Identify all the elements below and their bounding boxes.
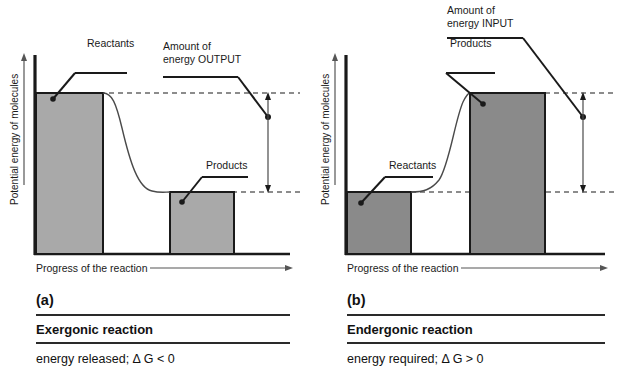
x-axis-direction-arrow-icon [461, 265, 608, 271]
reactants-bar [347, 192, 411, 254]
figure-root: Reactants Products Amount of energy OUTP… [0, 0, 627, 376]
reactants-bar [36, 93, 103, 254]
panel-subtitle-a: energy released; Δ G < 0 [0, 344, 313, 366]
energy-input-measure-arrow [580, 92, 586, 193]
products-bar [470, 93, 545, 254]
panel-title-b: Endergonic reaction [313, 316, 627, 342]
energy-input-label-line2: energy INPUT [447, 17, 514, 29]
x-axis-label: Progress of the reaction [36, 262, 148, 274]
endergonic-diagram: Reactants Products Amount of energy INPU… [313, 0, 627, 290]
reactants-label: Reactants [87, 37, 134, 49]
energy-output-callout [163, 77, 271, 120]
y-axis-label: Potential energy of molecules [320, 74, 331, 205]
reactants-label: Reactants [389, 159, 436, 171]
panel-title-a: Exergonic reaction [0, 316, 313, 342]
y-axis-arrow-icon [332, 53, 338, 185]
energy-output-label-line1: Amount of [163, 40, 211, 52]
y-axis-arrow-icon [21, 53, 27, 185]
panel-endergonic: Reactants Products Amount of energy INPU… [313, 0, 627, 376]
reaction-progress-curve [103, 93, 170, 192]
energy-output-measure-arrow [265, 92, 271, 193]
energy-output-label-line2: energy OUTPUT [163, 53, 242, 65]
products-label: Products [450, 37, 491, 49]
energy-input-label-line1: Amount of [447, 4, 495, 16]
y-axis-label: Potential energy of molecules [9, 74, 20, 205]
panel-letter-a: (a) [0, 292, 313, 314]
panel-letter-b: (b) [313, 292, 627, 314]
panel-exergonic: Reactants Products Amount of energy OUTP… [0, 0, 313, 376]
panel-subtitle-b: energy required; Δ G > 0 [313, 344, 627, 366]
exergonic-diagram: Reactants Products Amount of energy OUTP… [0, 0, 313, 290]
products-label: Products [206, 159, 247, 171]
x-axis-direction-arrow-icon [150, 265, 293, 271]
x-axis-label: Progress of the reaction [347, 262, 459, 274]
